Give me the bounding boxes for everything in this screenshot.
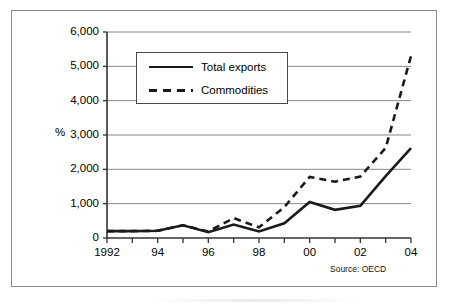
x-tick-label: 00 xyxy=(286,246,334,258)
y-axis-title: % xyxy=(55,126,65,138)
x-tick-label: 94 xyxy=(134,246,182,258)
source-note: Source: OECD xyxy=(330,264,386,274)
legend-label-total-exports: Total exports xyxy=(201,61,266,73)
legend-swatch-dashed-icon xyxy=(149,84,193,96)
legend-entry-total-exports: Total exports xyxy=(137,56,287,78)
y-tick-label: 4,000 xyxy=(55,94,99,106)
legend-entry-commodities: Commodities xyxy=(137,79,287,101)
y-tick-label: 5,000 xyxy=(55,59,99,71)
x-tick-label: 02 xyxy=(336,246,384,258)
y-tick-label: 2,000 xyxy=(55,162,99,174)
legend-swatch-solid-icon xyxy=(149,61,193,73)
x-tick-label: 98 xyxy=(235,246,283,258)
chart-plot-area xyxy=(0,0,451,306)
x-tick-label: 1992 xyxy=(83,246,131,258)
x-tick-label: 04 xyxy=(387,246,435,258)
y-tick-label: 1,000 xyxy=(55,197,99,209)
legend-label-commodities: Commodities xyxy=(201,84,268,96)
series-line-total-exports xyxy=(107,148,411,232)
x-tick-label: 96 xyxy=(184,246,232,258)
y-tick-label: 0 xyxy=(55,231,99,243)
chart-figure: 01,0002,0003,0004,0005,0006,000 19929496… xyxy=(0,0,451,306)
y-tick-label: 6,000 xyxy=(55,25,99,37)
chart-legend: Total exports Commodities xyxy=(136,52,288,104)
page-edge-artifact xyxy=(150,299,360,302)
